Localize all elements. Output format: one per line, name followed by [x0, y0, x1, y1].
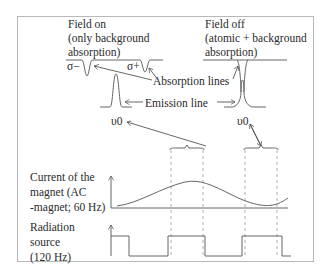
field-off-spectrum — [203, 60, 287, 107]
dashed-guides — [171, 150, 277, 256]
field-on-absorption-spectrum — [66, 60, 163, 76]
nu0-arrows — [127, 122, 261, 146]
absorption-arrows — [94, 66, 238, 80]
magnet-waveform — [111, 176, 288, 208]
source-waveform — [111, 225, 291, 256]
diagram-graphics — [0, 0, 331, 279]
interval-braces — [170, 145, 278, 150]
